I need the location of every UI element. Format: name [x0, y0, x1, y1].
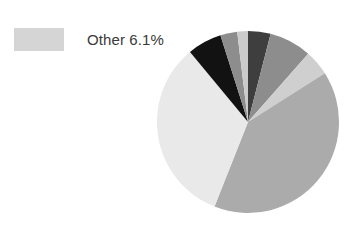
pie-chart: [156, 30, 340, 214]
pie-chart-figure: Other 6.1%: [0, 0, 361, 240]
pie-chart-svg: [156, 30, 340, 214]
legend-label-other: Other 6.1%: [87, 32, 164, 47]
legend-swatch-other: [14, 28, 64, 51]
chart-legend: Other 6.1%: [14, 28, 164, 51]
